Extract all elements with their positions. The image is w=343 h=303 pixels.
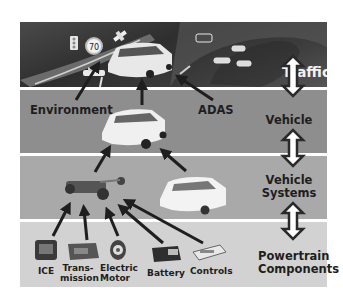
vehicle-systems-double-arrow-icon <box>283 130 303 166</box>
electric-motor-icon <box>110 240 126 260</box>
traffic-vehicle-double-arrow-icon <box>283 56 303 96</box>
transmission-arrow-icon <box>84 210 87 240</box>
layer-label-vehicle: Vehicle <box>258 114 320 127</box>
component-label-ice: ICE <box>34 266 58 276</box>
component-label-line: ICE <box>34 266 58 276</box>
chassis-powertrain-image <box>65 177 125 200</box>
systems-powertrain-double-arrow-icon <box>283 203 303 239</box>
component-label-line: mission <box>60 273 96 283</box>
layer-label-powertrain: Powertrain Components <box>258 250 320 276</box>
vehicle-systems-car-image <box>160 177 226 214</box>
component-label-line: Motor <box>100 273 140 283</box>
component-label-electric-motor: Electric Motor <box>100 263 140 283</box>
layer-label-line: Systems <box>258 187 320 200</box>
layer-label-line: Components <box>258 263 320 276</box>
battery-icon <box>152 246 181 262</box>
component-label-transmission: Trans- mission <box>60 263 96 283</box>
battery-arrow-icon <box>122 208 163 243</box>
adas-label: ADAS <box>198 104 234 117</box>
environment-label: Environment <box>30 104 113 117</box>
electric-motor-arrow-icon <box>108 212 118 236</box>
component-label-line: Controls <box>190 266 232 276</box>
controls-ecu-icon <box>193 245 226 260</box>
adas-arrow-icon <box>180 78 213 100</box>
component-label-line: Battery <box>146 268 186 278</box>
component-label-controls: Controls <box>190 266 232 276</box>
component-label-line: Trans- <box>60 263 96 273</box>
ice-engine-icon <box>35 240 57 260</box>
chassis-to-vehicle-arrow-icon <box>95 150 108 172</box>
environment-arrow-icon <box>76 66 97 100</box>
component-label-battery: Battery <box>146 268 186 278</box>
systems-car-to-vehicle-arrow-icon <box>164 152 186 171</box>
ice-arrow-icon <box>53 207 68 236</box>
transmission-icon <box>68 243 99 260</box>
component-label-line: Electric <box>100 263 140 273</box>
layer-label-vehicle-systems: Vehicle Systems <box>258 174 320 200</box>
